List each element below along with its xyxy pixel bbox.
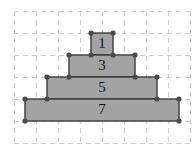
vertex-dot	[132, 74, 137, 79]
vertex-dot	[110, 30, 115, 35]
bar-label-1: 1	[98, 35, 106, 51]
vertex-dot	[22, 118, 27, 123]
bar-label-3: 3	[98, 57, 106, 73]
vertex-dot	[154, 74, 159, 79]
bar-label-7: 7	[98, 101, 106, 117]
vertex-dot	[110, 52, 115, 57]
vertex-dot	[66, 52, 71, 57]
figure-canvas: 1357	[0, 0, 195, 165]
odd-number-staircase-figure: 1357	[0, 0, 195, 165]
vertex-dot	[176, 96, 181, 101]
vertex-dot	[132, 52, 137, 57]
bar-label-5: 5	[98, 79, 106, 95]
vertex-dot	[22, 96, 27, 101]
vertex-dot	[176, 118, 181, 123]
vertex-dot	[88, 30, 93, 35]
vertex-dot	[66, 74, 71, 79]
vertex-dot	[44, 74, 49, 79]
vertex-dot	[88, 52, 93, 57]
vertex-dot	[44, 96, 49, 101]
vertex-dot	[154, 96, 159, 101]
